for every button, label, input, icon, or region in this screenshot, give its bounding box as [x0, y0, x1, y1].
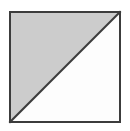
- figure-canvas: A square outlined in dark gray, split co…: [0, 0, 130, 131]
- geometric-figure-svg: [0, 0, 130, 131]
